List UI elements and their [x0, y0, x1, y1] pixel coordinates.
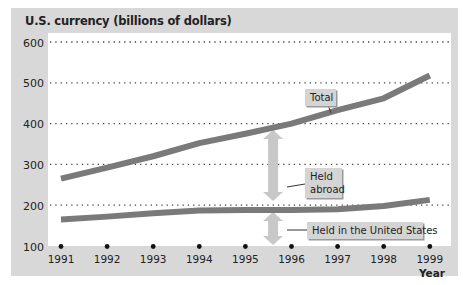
x-tick-dot [381, 244, 386, 249]
x-tick-label: 1999 [416, 253, 443, 265]
line-chart: 1002003004005006001991199219931994199519… [0, 0, 463, 285]
y-tick-label: 400 [23, 118, 44, 131]
x-tick-dot [243, 244, 248, 249]
held-in-us-label: Held in the United States [287, 222, 438, 241]
x-axis-label: Year [418, 267, 446, 279]
svg-text:Held: Held [310, 171, 333, 182]
x-tick-label: 1993 [140, 253, 167, 265]
y-tick-label: 200 [23, 200, 44, 213]
svg-text:Total: Total [309, 92, 333, 103]
x-tick-dot [105, 244, 110, 249]
x-tick-label: 1997 [324, 253, 351, 265]
y-tick-label: 100 [23, 241, 44, 254]
x-tick-dot [335, 244, 340, 249]
y-tick-label: 300 [23, 159, 44, 172]
x-tick-label: 1991 [48, 253, 75, 265]
x-tick-dot [289, 244, 294, 249]
x-tick-dot [427, 244, 432, 249]
x-tick-label: 1998 [370, 253, 397, 265]
y-tick-label: 500 [23, 77, 44, 90]
x-tick-label: 1992 [94, 253, 121, 265]
x-tick-label: 1996 [278, 253, 305, 265]
svg-text:Held in the United States: Held in the United States [312, 225, 438, 236]
x-tick-dot [151, 244, 156, 249]
svg-text:abroad: abroad [310, 184, 345, 195]
x-tick-dot [59, 244, 64, 249]
x-tick-dot [197, 244, 202, 249]
y-tick-label: 600 [23, 37, 44, 50]
x-tick-label: 1995 [232, 253, 259, 265]
x-tick-label: 1994 [186, 253, 213, 265]
